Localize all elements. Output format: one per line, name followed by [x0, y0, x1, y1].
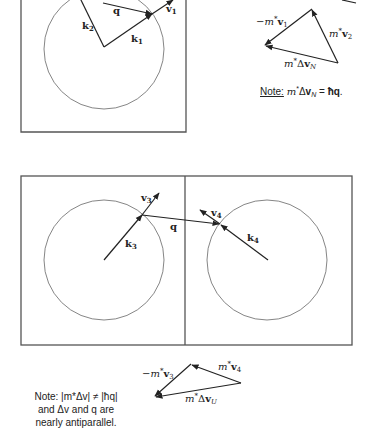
v1-label: v1: [165, 3, 177, 16]
diagram-canvas: k2 k1 q v1 −m*v1 m*v2 m*ΔvN Note: m*ΔvN …: [0, 0, 370, 429]
k4-label: k4: [247, 232, 259, 245]
partial-line: [342, 0, 356, 3]
v3-label: v3: [140, 192, 152, 205]
bottom-figure: v3 k3 q v4 k4 −m*v3 m*v4 m*ΔvU Note: |m*…: [21, 176, 352, 428]
top-fermi-circle: [44, 0, 164, 109]
k4-vector: [221, 225, 268, 260]
neg-mv3-label: −m*v3: [142, 367, 174, 381]
mdvU-label: m*ΔvU: [185, 392, 218, 406]
k1-label: k1: [131, 33, 143, 46]
q-label: q: [113, 5, 120, 16]
q-vector-bottom: [142, 215, 219, 224]
mv2-label: m*v2: [329, 27, 352, 41]
k3-vector: [104, 215, 142, 260]
bottom-note-line3: nearly antiparallel.: [35, 417, 116, 428]
neg-mv1-label: −m*v1: [256, 15, 288, 29]
q-label-bottom: q: [170, 221, 177, 232]
neg-mv1-arrow: [265, 9, 312, 45]
mdvN-label: m*ΔvN: [284, 57, 317, 71]
top-note: Note: m*ΔvN = ħq.: [260, 85, 343, 98]
k3-label: k3: [125, 238, 137, 251]
mv4-label: m*v4: [218, 360, 242, 374]
k1-vector: [104, 14, 152, 47]
bottom-note-line1: Note: |m*Δv| ≠ |ħq|: [34, 391, 117, 402]
bottom-note-line2: and Δv and q are: [38, 404, 115, 415]
bottom-zones-box: [21, 176, 352, 345]
top-figure: k2 k1 q v1 −m*v1 m*v2 m*ΔvN Note: m*ΔvN …: [21, 0, 356, 132]
